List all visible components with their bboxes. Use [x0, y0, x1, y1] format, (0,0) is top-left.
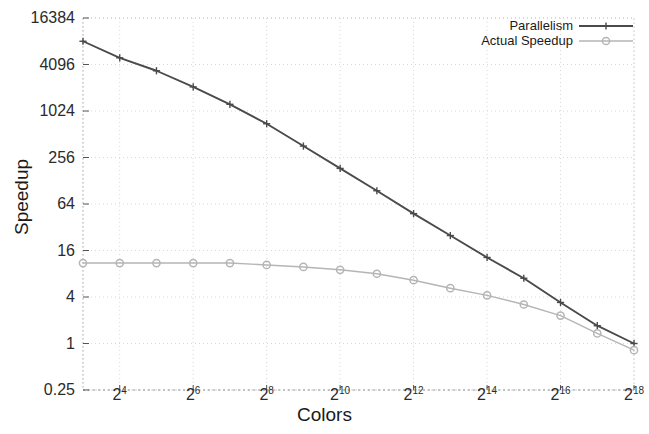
legend-entry: Actual Speedup: [415, 33, 635, 49]
legend-swatch: [577, 33, 635, 49]
x-tick-label: 26: [171, 386, 215, 403]
legend-label: Parallelism: [509, 18, 573, 34]
legend-swatch: [577, 18, 635, 34]
x-tick-label: 28: [245, 386, 289, 403]
x-tick-label: 210: [318, 386, 362, 403]
plot-area: [0, 0, 649, 434]
y-tick-label: 16: [57, 243, 75, 259]
speedup-vs-colors-chart: Speedup Colors 16384409610242566416410.2…: [0, 0, 649, 434]
x-tick-label: 214: [465, 386, 509, 403]
x-tick-label: 218: [612, 386, 649, 403]
legend-label: Actual Speedup: [481, 33, 573, 49]
x-axis-title: Colors: [0, 404, 649, 426]
y-tick-label: 4096: [39, 57, 75, 73]
series-actual-speedup: [79, 259, 637, 353]
y-tick-label: 1: [66, 336, 75, 352]
x-tick-label: 24: [98, 386, 142, 403]
y-tick-label: 64: [57, 196, 75, 212]
x-tick-label: 216: [539, 386, 583, 403]
y-axis-title: Speedup: [11, 157, 33, 237]
y-tick-label: 16384: [31, 10, 76, 26]
legend-entry: Parallelism: [415, 18, 635, 34]
y-tick-label: 0.25: [44, 382, 75, 398]
y-tick-label: 1024: [39, 103, 75, 119]
x-tick-label: 212: [392, 386, 436, 403]
y-tick-label: 4: [66, 289, 75, 305]
series-parallelism: [79, 38, 637, 347]
y-tick-label: 256: [48, 150, 75, 166]
